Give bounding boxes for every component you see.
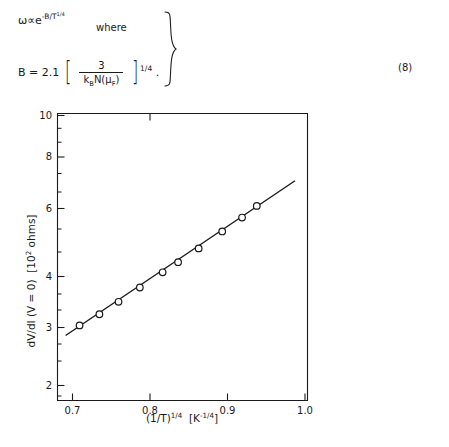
x-axis-unit-close: ] bbox=[214, 412, 218, 424]
data-point-marker bbox=[219, 228, 226, 235]
denominator-tail: ) bbox=[116, 74, 120, 85]
y-tick-label: 8 bbox=[46, 151, 52, 162]
equation-line1-prefix: ω∝e bbox=[18, 14, 42, 27]
y-tick-label: 10 bbox=[39, 110, 52, 121]
x-axis-title: (1/T)1/4 [K-1/4] bbox=[57, 412, 307, 424]
y-tick-label: 4 bbox=[46, 271, 52, 282]
equation-line1-exp-base: -B/T bbox=[42, 12, 57, 21]
equation-line1-exp-sup: 1/4 bbox=[56, 11, 64, 17]
data-point-marker bbox=[137, 284, 144, 291]
y-axis-major-ticks bbox=[58, 116, 65, 386]
plot-canvas: 10 8 6 4 3 2 0.7 0.8 0.9 1.0 bbox=[0, 100, 449, 447]
y-axis-tick-labels: 10 8 6 4 3 2 bbox=[39, 110, 52, 391]
equation-number: (8) bbox=[398, 62, 412, 73]
data-point-marker bbox=[253, 203, 260, 210]
data-point-marker bbox=[115, 299, 122, 306]
bracket-close: ] bbox=[132, 56, 138, 86]
figure-panel: 10 8 6 4 3 2 0.7 0.8 0.9 1.0 dV/dI (V = … bbox=[0, 100, 449, 447]
data-point-marker bbox=[175, 259, 182, 266]
x-axis-unit-exponent: -1/4 bbox=[200, 411, 214, 420]
equation-line1-exponent: -B/T1/4 bbox=[42, 12, 65, 21]
y-axis-minor-ticks bbox=[58, 128, 62, 396]
y-axis-unit-close: ] bbox=[25, 215, 37, 219]
y-axis-unit-exponent: 2 bbox=[24, 251, 33, 256]
equation-period: . bbox=[156, 66, 160, 79]
data-point-marker bbox=[195, 245, 202, 252]
y-axis-unit-open: [ bbox=[25, 269, 37, 273]
equation-lhs: B = 2.1 bbox=[18, 66, 59, 79]
outer-exponent: 1/4 bbox=[140, 64, 152, 73]
bracket-open: [ bbox=[65, 56, 71, 86]
x-axis-ticks bbox=[73, 114, 306, 401]
data-point-marker bbox=[96, 311, 103, 318]
x-axis-title-base: (1/T) bbox=[146, 412, 171, 424]
fraction-numerator: 3 bbox=[79, 60, 123, 72]
fraction: 3 kBN(μF) bbox=[79, 60, 123, 85]
y-axis-title-main: dV/dI (V = 0) bbox=[25, 279, 37, 347]
denominator-rest: N(μ bbox=[94, 74, 112, 85]
equation-line-2: B = 2.1 [ 3 kBN(μF) ]1/4 . bbox=[18, 58, 159, 88]
y-tick-label: 2 bbox=[46, 380, 52, 391]
data-point-marker bbox=[159, 269, 166, 276]
y-axis-unit-tail: ohms bbox=[25, 219, 37, 251]
y-tick-label: 6 bbox=[46, 203, 52, 214]
right-curly-brace-icon bbox=[161, 10, 183, 88]
equation-where-label: where bbox=[96, 22, 127, 33]
y-axis-title: dV/dI (V = 0) [102 ohms] bbox=[25, 186, 37, 376]
y-tick-label: 3 bbox=[46, 322, 52, 333]
x-axis-title-exponent: 1/4 bbox=[171, 411, 182, 420]
data-point-marker bbox=[76, 322, 83, 329]
x-axis-unit-base: K bbox=[193, 412, 200, 424]
equation-line-1: ω∝e-B/T1/4 bbox=[18, 14, 65, 27]
fraction-denominator: kBN(μF) bbox=[79, 72, 123, 85]
data-series bbox=[66, 181, 295, 336]
data-point-marker bbox=[239, 214, 246, 221]
y-axis-unit-base: 10 bbox=[25, 255, 37, 268]
equation-block: ω∝e-B/T1/4 where B = 2.1 [ 3 kBN(μF) ]1/… bbox=[0, 0, 449, 105]
